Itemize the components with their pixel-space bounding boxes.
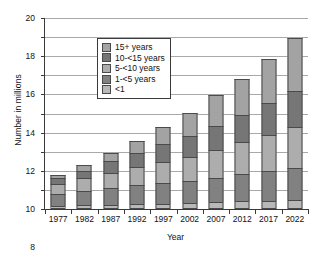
bar-segment <box>208 202 223 209</box>
bar-segment <box>103 153 118 162</box>
bar-2022[interactable] <box>287 38 302 209</box>
bar-segment <box>156 183 171 204</box>
legend-item[interactable]: <1 <box>102 84 165 95</box>
bar-segment <box>208 178 223 203</box>
bar-segment <box>287 200 302 209</box>
bar-segment <box>261 201 276 209</box>
legend-item-label: 1-<5 years <box>115 75 155 84</box>
chart-legend: 15+ years10-<15 years5-<10 years1-<5 yea… <box>97 38 171 99</box>
bar-segment <box>235 201 250 209</box>
y-tick-mark: 6 <box>41 152 45 153</box>
bar-segment <box>156 204 171 209</box>
bar-segment <box>130 141 145 152</box>
legend-item[interactable]: 1-<5 years <box>102 74 165 85</box>
bar-segment <box>208 126 223 150</box>
y-tick-mark: 18 <box>41 37 45 38</box>
legend-item[interactable]: 10-<15 years <box>102 53 165 64</box>
bar-segment <box>51 194 66 206</box>
bar-segment <box>182 203 197 209</box>
bar-segment <box>287 91 302 127</box>
x-tick-label: 2022 <box>285 214 304 224</box>
legend-swatch-icon <box>102 43 111 52</box>
x-axis-title: Year <box>44 232 307 242</box>
bar-1992[interactable] <box>130 141 145 209</box>
bar-segment <box>103 161 118 172</box>
bar-segment <box>77 171 92 179</box>
legend-item[interactable]: 15+ years <box>102 42 165 53</box>
bar-2017[interactable] <box>261 59 276 209</box>
plot-area: 02468101214161820 1977198219871992199720… <box>44 18 308 210</box>
x-tick-mark <box>124 209 125 214</box>
x-tick-mark <box>203 209 204 214</box>
bar-segment <box>235 115 250 143</box>
bar-segment <box>208 150 223 178</box>
bar-segment <box>51 206 66 209</box>
bar-segment <box>130 204 145 209</box>
gridline <box>45 18 308 19</box>
bar-2007[interactable] <box>208 95 223 209</box>
bar-segment <box>208 95 223 126</box>
y-tick-mark: 20 <box>41 18 45 19</box>
bar-segment <box>156 127 171 144</box>
y-tick-mark: 8 <box>41 133 45 134</box>
bar-1987[interactable] <box>103 153 118 209</box>
bar-1977[interactable] <box>51 175 66 209</box>
x-tick-label: 1987 <box>101 214 120 224</box>
legend-swatch-icon <box>102 64 111 73</box>
stacked-bar-chart: Number in millions 02468101214161820 197… <box>0 0 317 262</box>
bar-segment <box>261 103 276 135</box>
bar-segment <box>77 205 92 209</box>
bar-2012[interactable] <box>235 79 250 209</box>
gridline <box>45 56 308 57</box>
bar-1982[interactable] <box>77 165 92 209</box>
bar-segment <box>261 59 276 103</box>
bar-segment <box>287 38 302 91</box>
legend-item-label: <1 <box>115 85 125 94</box>
bar-segment <box>130 153 145 167</box>
bar-segment <box>235 79 250 114</box>
gridline <box>45 37 308 38</box>
y-tick-mark: 2 <box>41 190 45 191</box>
y-tick-mark: 4 <box>41 171 45 172</box>
bar-segment <box>103 173 118 188</box>
x-tick-mark <box>177 209 178 214</box>
legend-item[interactable]: 5-<10 years <box>102 63 165 74</box>
bar-segment <box>77 191 92 205</box>
y-tick-mark: 12 <box>41 94 45 95</box>
x-tick-mark <box>282 209 283 214</box>
legend-swatch-icon <box>102 53 111 62</box>
x-tick-mark <box>229 209 230 214</box>
bar-segment <box>156 144 171 162</box>
bar-segment <box>51 184 66 194</box>
bar-segment <box>156 162 171 183</box>
bar-segment <box>261 171 276 201</box>
bar-segment <box>261 135 276 171</box>
bar-segment <box>182 136 197 157</box>
y-tick-label: 16 <box>26 89 35 99</box>
bar-2002[interactable] <box>182 113 197 209</box>
y-tick-mark: 16 <box>41 56 45 57</box>
x-tick-label: 2012 <box>233 214 252 224</box>
y-tick-label: 14 <box>26 128 35 138</box>
legend-swatch-icon <box>102 85 111 94</box>
bar-segment <box>103 205 118 209</box>
y-tick-label: 20 <box>26 13 35 23</box>
x-tick-label: 1997 <box>154 214 173 224</box>
legend-item-label: 10-<15 years <box>115 54 165 63</box>
x-tick-mark <box>308 209 309 214</box>
y-tick-label: 12 <box>26 166 35 176</box>
y-axis-title: Number in millions <box>13 40 23 180</box>
x-tick-label: 1977 <box>49 214 68 224</box>
x-tick-label: 2017 <box>259 214 278 224</box>
y-tick-mark: 10 <box>41 114 45 115</box>
bar-segment <box>182 157 197 181</box>
y-tick-mark: 14 <box>41 75 45 76</box>
bar-segment <box>130 167 145 185</box>
x-tick-mark <box>45 209 46 214</box>
x-tick-mark <box>98 209 99 214</box>
bar-segment <box>287 168 302 200</box>
bar-1997[interactable] <box>156 127 171 209</box>
x-tick-label: 1992 <box>128 214 147 224</box>
x-tick-mark <box>71 209 72 214</box>
y-tick-label: 10 <box>26 204 35 214</box>
